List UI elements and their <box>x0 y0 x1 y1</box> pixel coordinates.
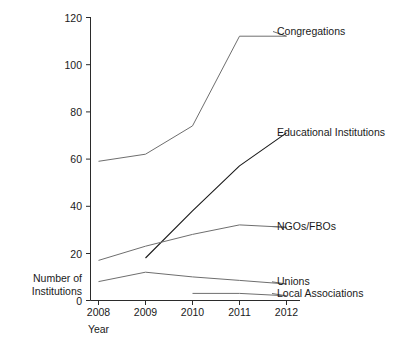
y-axis-title-line1: Number of <box>33 272 82 284</box>
x-tick-label: 2012 <box>275 306 299 318</box>
series-label-educational-institutions: Educational Institutions <box>277 126 385 138</box>
y-tick-label: 100 <box>64 59 82 71</box>
series-label-local-associations: Local Associations <box>277 287 363 299</box>
series-label-unions: Unions <box>277 275 310 287</box>
y-tick-label: 120 <box>64 12 82 24</box>
chart-canvas: 120 100 80 60 40 20 0 2008 2009 2010 201… <box>0 0 398 341</box>
series-label-ngos-fbos: NGOs/FBOs <box>277 220 336 232</box>
x-tick-label: 2011 <box>228 306 251 318</box>
x-tick-label: 2010 <box>181 306 205 318</box>
y-tick-label: 60 <box>70 153 82 165</box>
y-axis-title-line2: Institutions <box>32 285 82 297</box>
x-axis-title: Year <box>88 323 110 335</box>
line-chart: 120 100 80 60 40 20 0 2008 2009 2010 201… <box>0 0 398 341</box>
y-tick-label: 80 <box>70 106 82 118</box>
series-label-congregations: Congregations <box>277 25 345 37</box>
x-tick-label: 2009 <box>134 306 158 318</box>
y-tick-label: 20 <box>70 248 82 260</box>
x-tick-label: 2008 <box>87 306 111 318</box>
y-tick-label: 40 <box>70 200 82 212</box>
